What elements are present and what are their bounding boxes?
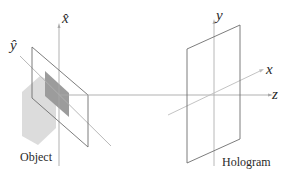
object-x-axis-label: x̂ <box>62 11 69 26</box>
hologram-x-axis-label: x <box>266 62 273 77</box>
object-caption: Object <box>20 151 52 163</box>
object-y-axis-label: ŷ <box>10 38 17 53</box>
hologram-y-axis-label: y <box>216 8 223 23</box>
hologram-caption: Hologram <box>222 156 271 168</box>
hologram-plane <box>187 25 240 163</box>
hologram-x-axis-arrow <box>259 69 264 73</box>
hologram-x-axis <box>168 70 262 115</box>
z-axis-label: z <box>272 87 278 102</box>
object-x-axis-arrow <box>58 23 61 28</box>
